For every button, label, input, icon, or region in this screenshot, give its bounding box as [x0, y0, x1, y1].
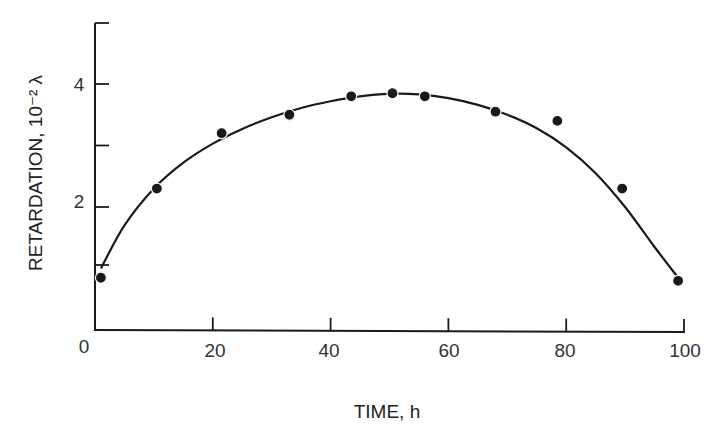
x-tick-label-80: 80	[554, 340, 575, 361]
data-point	[284, 109, 295, 120]
axes	[94, 23, 685, 332]
data-point	[346, 91, 357, 102]
data-point	[673, 275, 684, 286]
tick-marks	[95, 23, 684, 332]
data-point	[617, 183, 628, 194]
data-point	[216, 128, 227, 139]
x-tick-label-40: 40	[318, 340, 339, 361]
data-point	[95, 272, 106, 283]
y-tick-label-2: 2	[74, 191, 85, 212]
y-tick-label-4: 4	[74, 74, 85, 95]
origin-label: 0	[79, 336, 90, 357]
data-point	[490, 106, 501, 117]
x-tick-label-60: 60	[438, 340, 459, 361]
data-point	[419, 91, 430, 102]
x-tick-label-20: 20	[204, 340, 225, 361]
data-points	[95, 88, 683, 287]
data-point	[552, 115, 563, 126]
y-axis-title: RETARDATION, 10⁻² λ	[25, 74, 46, 271]
retardation-vs-time-chart: 0 20 40 60 80 100 2 4 TIME, h RETARDATIO…	[0, 0, 724, 437]
x-axis-title: TIME, h	[354, 401, 421, 422]
fitted-curve	[101, 94, 678, 278]
data-point	[151, 183, 162, 194]
x-tick-label-100: 100	[669, 340, 701, 361]
x-axis-line	[94, 330, 685, 332]
data-point	[387, 88, 398, 99]
fitted-curve-line	[101, 94, 678, 278]
